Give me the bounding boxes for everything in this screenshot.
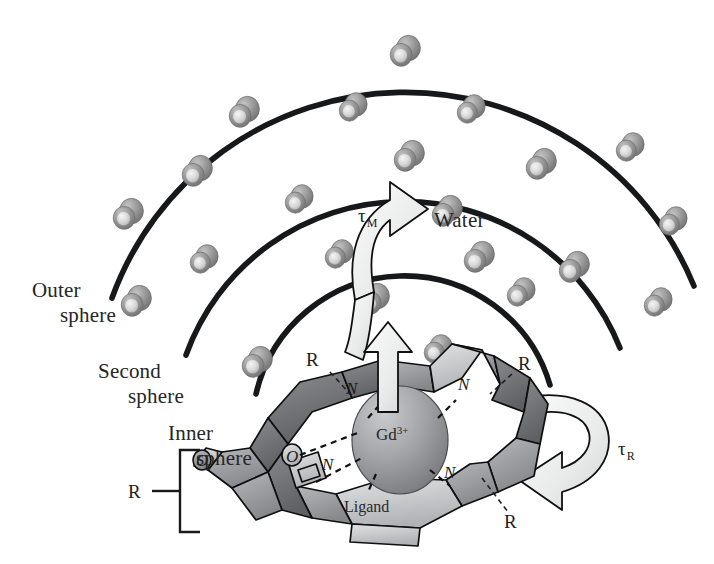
water-molecule — [507, 278, 535, 307]
nitrogen-label-3: N — [321, 455, 335, 474]
water-hydrogen-lobe — [186, 169, 199, 183]
inner-sphere-label-line1: Inner — [168, 421, 213, 445]
second-sphere-label-line1: Second — [98, 359, 161, 383]
coordination-bond-o1 — [300, 432, 360, 455]
water-molecule — [121, 285, 151, 316]
water-hydrogen-lobe — [289, 197, 301, 209]
second-sphere-label-line2: sphere — [128, 384, 184, 408]
water-hydrogen-lobe — [233, 110, 246, 124]
water-hydrogen-lobe — [563, 265, 576, 279]
water-molecule — [182, 155, 212, 186]
water-molecule — [616, 133, 644, 162]
water-molecule — [229, 96, 259, 127]
water-molecule — [325, 240, 353, 269]
outer-sphere-label-line1: Outer — [32, 278, 81, 302]
water-molecule — [113, 198, 143, 229]
water-hydrogen-lobe — [394, 49, 407, 63]
tau-r-label: τR — [618, 438, 635, 463]
water-hydrogen-lobe — [398, 154, 411, 168]
water-hydrogen-lobe — [648, 300, 660, 312]
gadolinium-charge: 3+ — [397, 424, 409, 436]
nitrogen-label-2: N — [457, 375, 471, 394]
water-hydrogen-lobe — [461, 107, 473, 119]
water-molecule — [526, 148, 556, 179]
water-hydrogen-lobe — [125, 299, 138, 313]
water-molecule — [394, 140, 424, 171]
tau-m-subscript: M — [367, 216, 378, 230]
coordination-bond-n3 — [438, 400, 456, 418]
nitrogen-label-1: N — [345, 379, 359, 398]
tau-r-subscript: R — [627, 449, 635, 463]
water-molecule — [190, 245, 218, 274]
water-label: Water — [434, 208, 485, 232]
r-label-bracket: R — [128, 481, 141, 502]
water-hydrogen-lobe — [343, 105, 355, 117]
ligand-label: Ligand — [344, 498, 389, 516]
water-hydrogen-lobe — [620, 145, 632, 157]
water-molecule — [559, 251, 589, 282]
water-hydrogen-lobe — [194, 257, 206, 269]
figure-canvas: Outer sphere Second sphere Inner sphere … — [0, 0, 714, 564]
cage-segment-bottom-front-base — [350, 524, 420, 546]
water-hydrogen-lobe — [511, 290, 523, 302]
water-molecule — [285, 185, 313, 214]
water-molecule — [644, 288, 672, 317]
gadolinium-symbol: Gd — [376, 425, 397, 444]
gadolinium-ion-sphere — [352, 386, 448, 494]
water-molecule — [242, 346, 272, 377]
r-label-bottom-right: R — [504, 511, 517, 532]
water-molecule — [390, 35, 420, 66]
water-hydrogen-lobe — [117, 212, 130, 226]
relaxation-spheres-figure: Outer sphere Second sphere Inner sphere … — [0, 0, 714, 564]
water-molecule — [659, 207, 687, 236]
water-hydrogen-lobe — [663, 219, 675, 231]
r-label-top-left: R — [306, 349, 319, 370]
tau-r-symbol: τ — [618, 438, 626, 459]
tau-m-symbol: τ — [358, 205, 366, 226]
water-hydrogen-lobe — [246, 360, 259, 374]
nitrogen-label-4: N — [443, 463, 457, 482]
water-hydrogen-lobe — [530, 162, 543, 176]
oxygen-label-1: O — [286, 447, 298, 466]
water-hydrogen-lobe — [468, 255, 481, 269]
outer-sphere-label-line2: sphere — [60, 303, 116, 327]
tau-m-label: τM — [358, 205, 378, 230]
oxygen-label-2: O — [196, 451, 208, 470]
water-hydrogen-lobe — [329, 252, 341, 264]
water-molecule — [464, 241, 494, 272]
r-label-top-right: R — [518, 353, 531, 374]
